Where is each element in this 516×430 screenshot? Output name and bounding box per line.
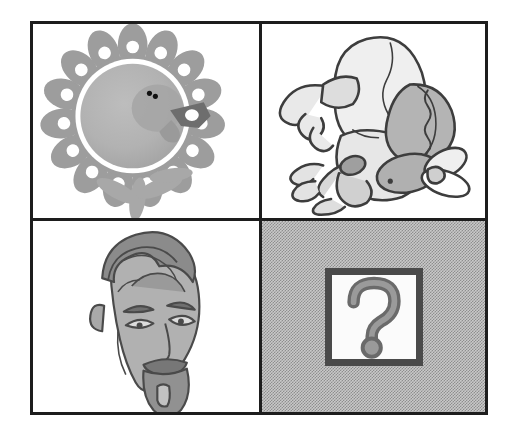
bird-collar <box>321 77 359 108</box>
question-mark-box[interactable]: ? <box>325 268 423 366</box>
bird-eye <box>388 179 393 184</box>
cartoon-bird-bending-icon <box>262 24 485 218</box>
puzzle-cell-top-right[interactable]: Cartoon bird bending forward <box>259 24 485 218</box>
question-mark-dot <box>362 338 380 356</box>
face-pupil-right <box>178 318 184 324</box>
face-pupil-left <box>137 322 143 328</box>
turkey-beak-highlight <box>185 109 199 121</box>
puzzle-grid: Turkey with fanned tail <box>30 21 488 415</box>
puzzle-screenshot: Turkey with fanned tail <box>0 0 516 430</box>
bird-toe <box>313 199 345 215</box>
turkey-eye-left <box>147 91 152 96</box>
puzzle-cell-bottom-right[interactable]: Unknown answer placeholder ? <box>259 218 485 412</box>
turkey-eye-right <box>153 94 158 99</box>
question-box-wrapper: ? <box>262 221 485 412</box>
question-mark-icon <box>332 275 416 359</box>
turkey-fanned-tail-icon <box>33 24 259 218</box>
puzzle-cell-bottom-left[interactable]: Man's face with goatee <box>33 218 259 412</box>
mans-face-goatee-icon <box>33 221 259 412</box>
face-ear <box>90 305 104 331</box>
bird-beak-joint <box>427 167 444 184</box>
puzzle-cell-top-left[interactable]: Turkey with fanned tail <box>33 24 259 218</box>
face-goatee-highlight <box>157 384 169 406</box>
